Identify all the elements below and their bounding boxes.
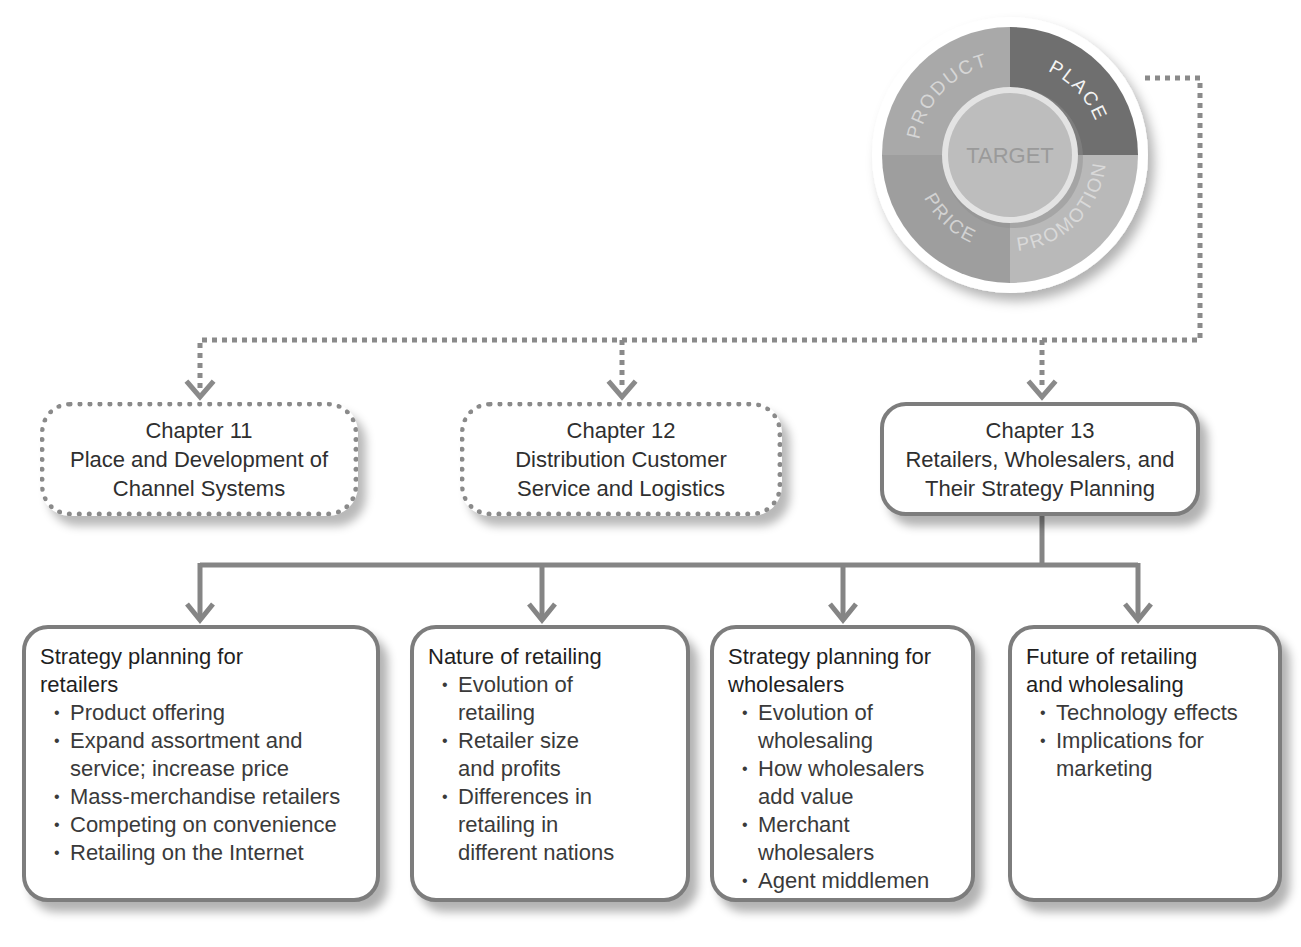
chapter-number: Chapter 11 [145, 416, 252, 445]
topic-title-line: Nature of retailing [428, 643, 676, 671]
topic-title-line: retailers [40, 671, 366, 699]
topic-bullet-list: Technology effects Implications formarke… [1026, 699, 1268, 783]
topic-box-nature-of-retailing: Nature of retailing Evolution ofretailin… [410, 625, 690, 902]
bullet-item: Retailing on the Internet [70, 839, 366, 867]
bullet-item: Competing on convenience [70, 811, 366, 839]
topic-title-line: Strategy planning for [40, 643, 366, 671]
topic-bullet-list: Product offering Expand assortment andse… [40, 699, 366, 867]
bullet-item: Technology effects [1056, 699, 1268, 727]
topic-title: Nature of retailing [428, 643, 676, 671]
topic-title: Strategy planning for retailers [40, 643, 366, 699]
topic-title: Future of retailing and wholesaling [1026, 643, 1268, 699]
wheel-center-label: TARGET [966, 143, 1054, 168]
chapter-12-box: Chapter 12 Distribution Customer Service… [460, 402, 782, 516]
topic-box-retailer-strategy: Strategy planning for retailers Product … [22, 625, 380, 902]
chapter-title-line: Retailers, Wholesalers, and [905, 445, 1174, 474]
bullet-item: Implications formarketing [1056, 727, 1268, 783]
chapter-title-line: Channel Systems [113, 474, 285, 503]
topic-title-line: wholesalers [728, 671, 961, 699]
chapter-11-box: Chapter 11 Place and Development of Chan… [40, 402, 358, 516]
bullet-item: Agent middlemen [758, 867, 961, 895]
topic-title-line: Strategy planning for [728, 643, 961, 671]
bullet-item: Merchantwholesalers [758, 811, 961, 867]
topic-box-future: Future of retailing and wholesaling Tech… [1008, 625, 1282, 902]
chapter-title-line: Place and Development of [70, 445, 328, 474]
chapter-title-line: Their Strategy Planning [925, 474, 1155, 503]
topic-title: Strategy planning for wholesalers [728, 643, 961, 699]
bullet-item: How wholesalersadd value [758, 755, 961, 811]
topic-bullet-list: Evolution ofretailing Retailer sizeand p… [428, 671, 676, 867]
bullet-item: Expand assortment andservice; increase p… [70, 727, 366, 783]
bullet-item: Evolution ofwholesaling [758, 699, 961, 755]
topic-title-line: Future of retailing [1026, 643, 1268, 671]
bullet-item: Product offering [70, 699, 366, 727]
bullet-item: Evolution ofretailing [458, 671, 676, 727]
bullet-item: Retailer sizeand profits [458, 727, 676, 783]
chapter-number: Chapter 13 [986, 416, 1095, 445]
topic-title-line: and wholesaling [1026, 671, 1268, 699]
topic-bullet-list: Evolution ofwholesaling How wholesalersa… [728, 699, 961, 895]
bullet-item: Mass-merchandise retailers [70, 783, 366, 811]
chapter-title-line: Service and Logistics [517, 474, 725, 503]
topic-box-wholesaler-strategy: Strategy planning for wholesalers Evolut… [710, 625, 975, 902]
chapter-13-box: Chapter 13 Retailers, Wholesalers, and T… [880, 402, 1200, 516]
chapter-number: Chapter 12 [567, 416, 676, 445]
bullet-item: Differences inretailing indifferent nati… [458, 783, 676, 867]
chapter-title-line: Distribution Customer [515, 445, 727, 474]
